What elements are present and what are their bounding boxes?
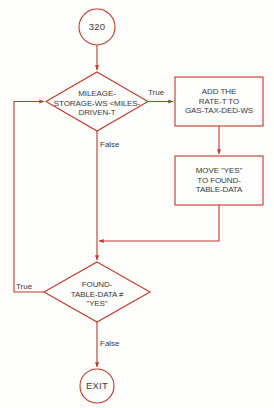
edge-found-true-loop bbox=[14, 102, 44, 293]
start-terminal-shape bbox=[79, 9, 115, 45]
decision-mileage-shape bbox=[46, 72, 148, 131]
process-move-yes-shape bbox=[175, 156, 263, 205]
decision-found-shape bbox=[44, 262, 150, 322]
exit-terminal-shape bbox=[80, 369, 114, 403]
process-add-rate-shape bbox=[175, 77, 263, 126]
edge-move-to-merge bbox=[99, 205, 219, 241]
flowchart-canvas: 320 MILEAGE- STORAGE-WS <MILES- DRIVEN-T… bbox=[0, 0, 274, 408]
flowchart-connectors bbox=[0, 0, 274, 408]
